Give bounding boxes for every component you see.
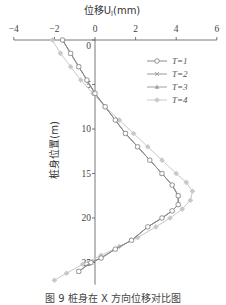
series-line bbox=[63, 40, 179, 271]
circle-marker bbox=[160, 216, 165, 221]
circle-marker bbox=[99, 256, 104, 261]
circle-marker bbox=[170, 209, 175, 214]
circle-marker bbox=[176, 193, 181, 198]
x-tick-label: −4 bbox=[9, 24, 19, 34]
legend-entry: T=4 bbox=[172, 95, 188, 105]
x-tick-label: 2 bbox=[133, 24, 138, 34]
circle-marker bbox=[60, 38, 65, 43]
circle-marker bbox=[113, 118, 118, 123]
circle-marker bbox=[176, 202, 181, 207]
circle-marker bbox=[68, 51, 73, 56]
y-axis-title: 桩身位置(m) bbox=[48, 121, 60, 179]
x-tick-label: 4 bbox=[174, 24, 179, 34]
legend-entry: T=2 bbox=[172, 69, 188, 79]
y-tick-label: 0 bbox=[86, 41, 91, 51]
circle-marker bbox=[93, 91, 98, 96]
diamond-marker bbox=[64, 270, 70, 276]
circle-marker bbox=[76, 269, 81, 274]
circle-marker bbox=[160, 171, 165, 176]
diamond-marker bbox=[52, 278, 58, 284]
circle-marker bbox=[129, 238, 134, 243]
circle-marker bbox=[148, 158, 153, 163]
x-axis-title: 位移Ul(mm) bbox=[84, 4, 141, 18]
circle-marker bbox=[76, 64, 81, 69]
series-T3 bbox=[60, 38, 180, 274]
series-T1 bbox=[60, 38, 180, 274]
diamond-marker bbox=[154, 97, 160, 103]
circle-marker bbox=[123, 131, 128, 136]
circle-marker bbox=[135, 145, 140, 150]
x-tick-label: −2 bbox=[49, 24, 59, 34]
legend-entry: T=3 bbox=[172, 82, 188, 92]
legend-entry: T=1 bbox=[172, 56, 188, 66]
circle-marker bbox=[113, 247, 118, 252]
figure-caption: 图 9 桩身在 X 方向位移对比图 bbox=[0, 290, 226, 305]
series-T2 bbox=[61, 38, 181, 273]
x-tick-label: 6 bbox=[214, 24, 219, 34]
circle-marker bbox=[103, 104, 108, 109]
y-tick-label: 10 bbox=[82, 124, 92, 134]
diamond-marker bbox=[190, 189, 196, 195]
circle-marker bbox=[145, 225, 150, 230]
circle-marker bbox=[170, 183, 175, 188]
y-tick-label: 20 bbox=[82, 213, 92, 223]
series-line bbox=[63, 40, 179, 271]
x-tick-label: 0 bbox=[93, 24, 98, 34]
y-tick-label: 15 bbox=[82, 169, 92, 179]
legend: T=1T=2T=3T=4 bbox=[147, 56, 188, 105]
series-line bbox=[63, 40, 179, 271]
circle-marker bbox=[89, 260, 94, 265]
diamond-marker bbox=[153, 224, 159, 230]
circle-marker bbox=[155, 59, 160, 64]
circle-marker bbox=[85, 78, 90, 83]
